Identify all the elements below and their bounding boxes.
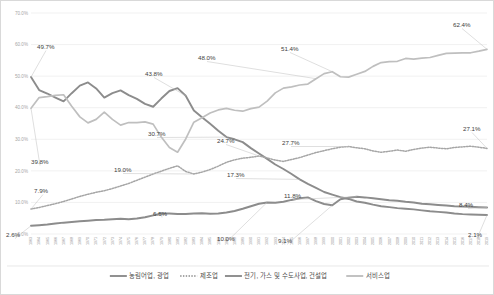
annotation-leader-line bbox=[462, 29, 487, 50]
x-axis-tick-label: 1977 bbox=[143, 237, 147, 245]
data-value-label: 49.7% bbox=[37, 43, 55, 50]
data-value-label: 24.7% bbox=[217, 137, 235, 144]
data-value-label: 6.5% bbox=[153, 210, 168, 217]
x-axis-tick-label: 2013 bbox=[436, 237, 440, 245]
x-axis-tick-label: 1966 bbox=[54, 237, 58, 245]
y-axis-tick-label: 10.0% bbox=[15, 200, 28, 205]
x-axis-tick-label: 1981 bbox=[176, 237, 180, 245]
annotation-leader-line bbox=[123, 174, 194, 175]
data-value-label: 2.6% bbox=[6, 231, 21, 238]
svg-text:2010: 2010 bbox=[412, 237, 416, 245]
x-axis-tick-label: 2006 bbox=[379, 237, 383, 245]
annotation-leader-line bbox=[236, 179, 300, 180]
svg-text:2019: 2019 bbox=[485, 237, 489, 245]
x-axis-tick-label: 1968 bbox=[70, 237, 74, 245]
svg-text:2001: 2001 bbox=[339, 237, 343, 245]
svg-text:2004: 2004 bbox=[363, 237, 367, 245]
legend-item-label: 전기, 가스 및 수도사업, 건설업 bbox=[244, 271, 327, 280]
line-chart-svg: 0.0%10.0%20.0%30.0%40.0%50.0%60.0%70.0%1… bbox=[1, 1, 494, 295]
x-axis-tick-label: 1980 bbox=[168, 237, 172, 245]
svg-text:2000: 2000 bbox=[331, 237, 335, 245]
chart-container: 0.0%10.0%20.0%30.0%40.0%50.0%60.0%70.0%1… bbox=[0, 0, 494, 295]
data-value-label: 27.1% bbox=[463, 125, 481, 132]
data-value-label: 10.0% bbox=[217, 235, 235, 242]
x-axis-tick-label: 1971 bbox=[94, 237, 98, 245]
svg-text:1972: 1972 bbox=[103, 237, 107, 245]
x-axis-tick-label: 1990 bbox=[249, 237, 253, 245]
svg-text:2005: 2005 bbox=[371, 237, 375, 245]
x-axis-tick-label: 1976 bbox=[135, 237, 139, 245]
x-axis-tick-label: 1967 bbox=[62, 237, 66, 245]
x-axis-tick-label: 1997 bbox=[306, 237, 310, 245]
svg-text:1990: 1990 bbox=[249, 237, 253, 245]
data-value-label: 17.3% bbox=[227, 171, 245, 178]
svg-text:2012: 2012 bbox=[428, 237, 432, 245]
svg-text:2009: 2009 bbox=[404, 237, 408, 245]
x-axis-tick-label: 2017 bbox=[469, 237, 473, 245]
x-axis-tick-label: 1979 bbox=[160, 237, 164, 245]
y-axis-tick-label: 70.0% bbox=[15, 11, 28, 16]
data-value-label: 30.7% bbox=[148, 130, 166, 137]
x-axis-tick-label: 2004 bbox=[363, 237, 367, 245]
svg-text:1970: 1970 bbox=[86, 237, 90, 245]
annotation-leader-line bbox=[472, 133, 487, 149]
legend-item-3[interactable]: 서비스업 bbox=[346, 271, 390, 280]
svg-text:1976: 1976 bbox=[135, 237, 139, 245]
x-axis-tick-label: 1985 bbox=[208, 237, 212, 245]
x-axis-tick-label: 2008 bbox=[396, 237, 400, 245]
y-axis-tick-label: 60.0% bbox=[15, 42, 28, 47]
x-axis-tick-label: 2009 bbox=[404, 237, 408, 245]
x-axis-tick-label: 1992 bbox=[265, 237, 269, 245]
annotation-leader-line bbox=[290, 53, 332, 72]
legend-item-label: 농림어업, 광업 bbox=[129, 271, 169, 280]
x-axis-tick-label: 2018 bbox=[477, 237, 481, 245]
x-axis-tick-label: 1982 bbox=[184, 237, 188, 245]
x-axis-tick-label: 2010 bbox=[412, 237, 416, 245]
x-axis-tick-label: 2011 bbox=[420, 237, 424, 245]
svg-text:1967: 1967 bbox=[62, 237, 66, 245]
series-line-0 bbox=[31, 77, 487, 215]
svg-text:1971: 1971 bbox=[94, 237, 98, 245]
data-value-label: 7.9% bbox=[34, 187, 49, 194]
svg-text:1977: 1977 bbox=[143, 237, 147, 245]
x-axis-tick-label: 2005 bbox=[371, 237, 375, 245]
svg-text:2006: 2006 bbox=[379, 237, 383, 245]
annotation-leader-line bbox=[154, 78, 186, 96]
svg-text:1993: 1993 bbox=[274, 237, 278, 245]
legend-item-label: 서비스업 bbox=[366, 271, 390, 280]
svg-text:2007: 2007 bbox=[388, 237, 392, 245]
x-axis-tick-label: 1972 bbox=[103, 237, 107, 245]
x-axis-tick-label: 1975 bbox=[127, 237, 131, 245]
legend-item-1[interactable]: 제조업 bbox=[180, 272, 218, 280]
svg-text:1983: 1983 bbox=[192, 237, 196, 245]
legend-item-0[interactable]: 농림어업, 광업 bbox=[110, 271, 169, 280]
svg-text:1975: 1975 bbox=[127, 237, 131, 245]
series-line-1 bbox=[31, 146, 487, 209]
x-axis-tick-label: 2001 bbox=[339, 237, 343, 245]
svg-text:1963: 1963 bbox=[29, 237, 33, 245]
svg-text:1974: 1974 bbox=[119, 237, 123, 245]
x-axis-tick-label: 2016 bbox=[461, 237, 465, 245]
x-axis-tick-label: 2007 bbox=[388, 237, 392, 245]
svg-text:1981: 1981 bbox=[176, 237, 180, 245]
annotation-leader-line bbox=[31, 108, 40, 165]
x-axis-tick-label: 1989 bbox=[241, 237, 245, 245]
legend-item-2[interactable]: 전기, 가스 및 수도사업, 건설업 bbox=[225, 271, 327, 280]
x-axis-tick-label: 2012 bbox=[428, 237, 432, 245]
svg-text:1964: 1964 bbox=[37, 237, 41, 245]
data-value-label: 51.4% bbox=[281, 45, 299, 52]
svg-text:1996: 1996 bbox=[298, 237, 302, 245]
svg-text:2011: 2011 bbox=[420, 237, 424, 245]
svg-text:2003: 2003 bbox=[355, 237, 359, 245]
plot-area: 0.0%10.0%20.0%30.0%40.0%50.0%60.0%70.0%1… bbox=[1, 1, 494, 295]
svg-text:1979: 1979 bbox=[160, 237, 164, 245]
svg-text:1973: 1973 bbox=[111, 237, 115, 245]
svg-text:1978: 1978 bbox=[151, 237, 155, 245]
svg-text:1992: 1992 bbox=[265, 237, 269, 245]
x-axis-tick-label: 1984 bbox=[200, 237, 204, 245]
data-value-label: 2.1% bbox=[468, 231, 483, 238]
data-value-label: 27.7% bbox=[282, 139, 300, 146]
svg-text:2018: 2018 bbox=[477, 237, 481, 245]
data-value-label: 9.1% bbox=[278, 237, 293, 244]
legend-item-label: 제조업 bbox=[200, 272, 218, 280]
